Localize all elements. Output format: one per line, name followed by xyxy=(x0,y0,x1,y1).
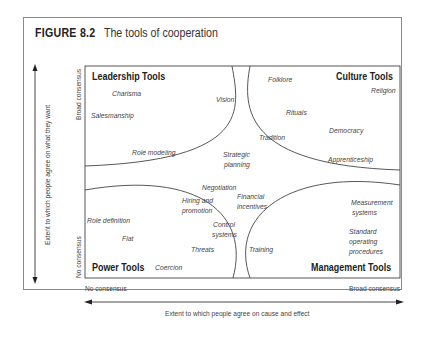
label-strategic: Strategic xyxy=(223,150,250,160)
label-role-definition: Role definition xyxy=(87,216,130,226)
management-tools-title: Management Tools xyxy=(311,261,391,273)
label-promotion: promotion xyxy=(182,206,212,216)
label-standard: Standard xyxy=(349,227,377,237)
x-axis-right-label: Broad consensus xyxy=(349,284,400,293)
label-incentives: incentives xyxy=(237,202,267,212)
x-axis-arrow-right-icon xyxy=(396,300,404,305)
label-hiring-and: Hiring and xyxy=(182,196,213,206)
label-training: Training xyxy=(249,245,273,255)
label-apprenticeship: Apprenticeship xyxy=(328,155,373,165)
label-procedures: procedures xyxy=(349,247,383,257)
label-measurement-systems: systems xyxy=(352,208,377,218)
label-rituals: Rituals xyxy=(286,108,307,118)
label-charisma: Charisma xyxy=(112,89,141,99)
y-axis-arrow-up-icon xyxy=(33,64,38,71)
x-axis-arrow-left-icon xyxy=(84,300,92,305)
diagram-graphics xyxy=(0,0,442,350)
label-threats: Threats xyxy=(191,245,214,255)
label-democracy: Democracy xyxy=(329,126,363,136)
label-role-modeling: Role modeling xyxy=(132,148,175,158)
label-coercion: Coercion xyxy=(155,263,182,273)
y-axis-label: Extent to which people agree on what the… xyxy=(43,105,52,245)
power-tools-title: Power Tools xyxy=(92,261,144,273)
label-folklore: Folklore xyxy=(268,75,292,85)
label-negotiation: Negotiation xyxy=(202,183,236,193)
label-vision: Vision xyxy=(216,95,234,105)
label-fiat: Fiat xyxy=(122,234,133,244)
x-axis-left-label: No consensus xyxy=(85,284,127,293)
label-operating: operating xyxy=(349,237,377,247)
label-salesmanship: Salesmanship xyxy=(91,111,134,121)
x-axis-label: Extent to which people agree on cause an… xyxy=(165,309,309,318)
label-systems: systems xyxy=(212,230,237,240)
label-tradition: Tradition xyxy=(259,133,285,143)
y-axis-top-label: Broad consensus xyxy=(74,69,83,120)
label-financial: Financial xyxy=(237,192,264,202)
leadership-tools-title: Leadership Tools xyxy=(92,70,165,82)
y-axis-arrow-down-icon xyxy=(33,277,38,284)
label-religion: Religion xyxy=(371,86,396,96)
label-measurement: Measurement xyxy=(351,198,393,208)
culture-tools-title: Culture Tools xyxy=(336,70,393,82)
y-axis-bottom-label: No consensus xyxy=(74,236,83,278)
label-control: Control xyxy=(213,220,235,230)
label-planning: planning xyxy=(224,160,250,170)
